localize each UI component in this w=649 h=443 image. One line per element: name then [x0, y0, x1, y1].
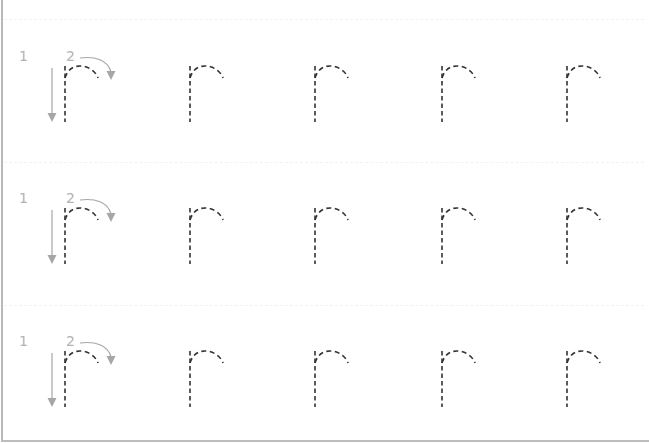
row-drawing	[0, 0, 649, 142]
tracing-letter-r	[442, 66, 475, 122]
row-drawing	[0, 285, 649, 427]
tracing-letter-r	[567, 351, 600, 407]
tracing-letter-r	[65, 208, 98, 264]
tracing-letter-r	[442, 351, 475, 407]
practice-row: 12	[0, 285, 649, 427]
curved-arrow-icon	[80, 343, 116, 365]
tracing-letter-r	[315, 66, 348, 122]
tracing-worksheet: 121212	[0, 0, 649, 443]
tracing-letter-r	[65, 351, 98, 407]
tracing-letter-r	[65, 66, 98, 122]
row-drawing	[0, 142, 649, 284]
tracing-letter-r	[190, 208, 223, 264]
tracing-letter-r	[315, 351, 348, 407]
sheet-bottom-border	[1, 440, 649, 442]
down-arrow-icon	[48, 68, 57, 122]
curved-arrow-icon	[80, 200, 116, 222]
tracing-letter-r	[315, 208, 348, 264]
down-arrow-icon	[48, 353, 57, 407]
practice-row: 12	[0, 0, 649, 142]
tracing-letter-r	[190, 351, 223, 407]
tracing-letter-r	[567, 208, 600, 264]
tracing-letter-r	[190, 66, 223, 122]
tracing-letter-r	[567, 66, 600, 122]
practice-row: 12	[0, 142, 649, 284]
down-arrow-icon	[48, 210, 57, 264]
curved-arrow-icon	[80, 58, 116, 80]
tracing-letter-r	[442, 208, 475, 264]
